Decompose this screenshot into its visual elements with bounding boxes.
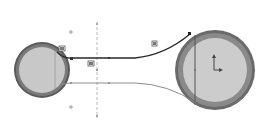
sketch-canvas[interactable] <box>0 0 268 123</box>
construction-line-bottom-point[interactable] <box>96 115 98 117</box>
tangent-relation-badge-right[interactable] <box>152 41 157 46</box>
bottom-sketch-point[interactable] <box>69 105 73 109</box>
belt-upper-tangent-line[interactable] <box>57 34 190 58</box>
coincident-relation-badge[interactable] <box>88 61 94 66</box>
lower-line-endpoint-left[interactable] <box>70 82 72 84</box>
upper-line-endpoint-left[interactable] <box>70 57 73 60</box>
upper-line-endpoint-mid[interactable] <box>108 57 110 59</box>
belt-lower-tangent-line[interactable] <box>57 83 196 103</box>
upper-line-endpoint-right[interactable] <box>188 32 191 35</box>
tangent-relation-badge-left[interactable] <box>59 46 65 51</box>
lower-line-endpoint-mid[interactable] <box>108 82 110 84</box>
center-sketch-point[interactable] <box>96 69 98 71</box>
top-sketch-point[interactable] <box>69 30 73 34</box>
construction-line-top-point[interactable] <box>96 23 98 25</box>
